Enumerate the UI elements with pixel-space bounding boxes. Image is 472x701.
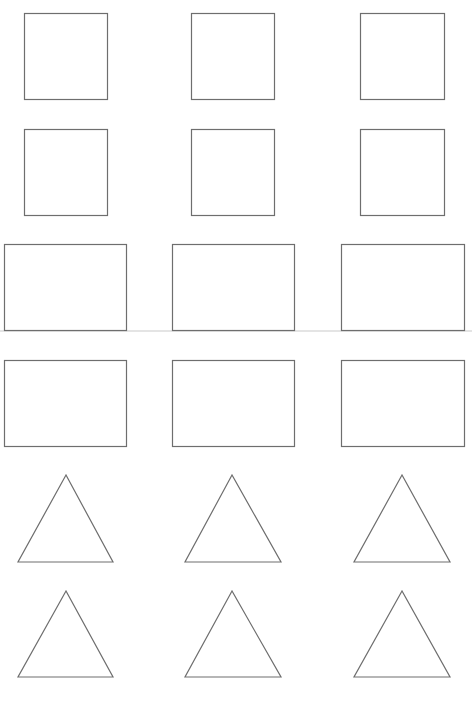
square-shape: [25, 14, 108, 100]
triangle-shape: [18, 591, 113, 677]
triangle-shape: [185, 475, 281, 562]
square-shape: [192, 130, 275, 216]
shape-row-3: [5, 245, 465, 331]
square-shape: [361, 14, 445, 100]
shape-row-5: [18, 475, 450, 562]
shapes-layer: [5, 14, 465, 678]
triangle-shape: [354, 591, 450, 677]
rectangle-shape: [5, 361, 127, 447]
triangle-shape: [185, 591, 281, 677]
shape-row-1: [25, 14, 445, 100]
triangle-shape: [18, 475, 113, 562]
rectangle-shape: [173, 361, 295, 447]
square-shape: [25, 130, 108, 216]
square-shape: [192, 14, 275, 100]
shape-row-2: [25, 130, 445, 216]
square-shape: [361, 130, 445, 216]
shape-row-6: [18, 591, 450, 677]
rectangle-shape: [342, 361, 465, 447]
triangle-shape: [354, 475, 450, 562]
rectangle-shape: [342, 245, 465, 331]
shape-sheet: [0, 0, 472, 701]
rectangle-shape: [173, 245, 295, 331]
rectangle-shape: [5, 245, 127, 331]
shape-row-4: [5, 361, 465, 447]
